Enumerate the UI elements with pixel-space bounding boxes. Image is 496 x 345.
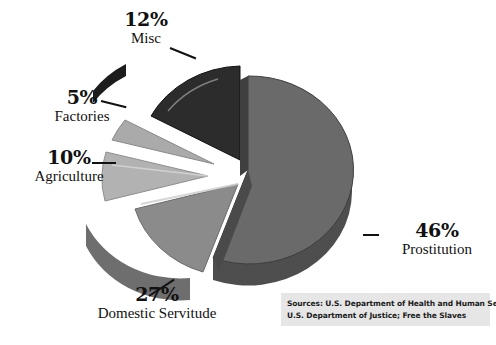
callout-prostitution: 46% Prostitution — [382, 221, 492, 258]
sources-line-2: U.S. Department of Justice; Free the Sla… — [287, 310, 486, 322]
callout-misc: 12% Misc — [100, 10, 192, 47]
callout-prostitution-percent: 46% — [382, 221, 492, 241]
callout-domestic-servitude: 27% Domestic Servitude — [66, 285, 248, 322]
callout-domestic-servitude-percent: 27% — [66, 285, 248, 305]
callout-misc-label: Misc — [100, 31, 192, 47]
slice-prostitution-inner-face — [240, 76, 248, 176]
sources-line-1: Sources: U.S. Department of Health and H… — [287, 298, 486, 310]
callout-agriculture-percent: 10% — [10, 148, 128, 168]
callout-agriculture: 10% Agriculture — [10, 148, 128, 185]
callout-factories: 5% Factories — [30, 88, 134, 125]
callout-domestic-servitude-label: Domestic Servitude — [66, 306, 248, 322]
callout-agriculture-label: Agriculture — [10, 169, 128, 185]
sources-box: Sources: U.S. Department of Health and H… — [281, 293, 490, 326]
callout-factories-label: Factories — [30, 109, 134, 125]
callout-factories-percent: 5% — [30, 88, 134, 108]
callout-prostitution-label: Prostitution — [382, 242, 492, 258]
pie-chart-figure: 12% Misc 5% Factories 10% Agriculture 27… — [0, 0, 496, 345]
callout-misc-percent: 12% — [100, 10, 192, 30]
leader-line-prostitution — [363, 234, 379, 236]
